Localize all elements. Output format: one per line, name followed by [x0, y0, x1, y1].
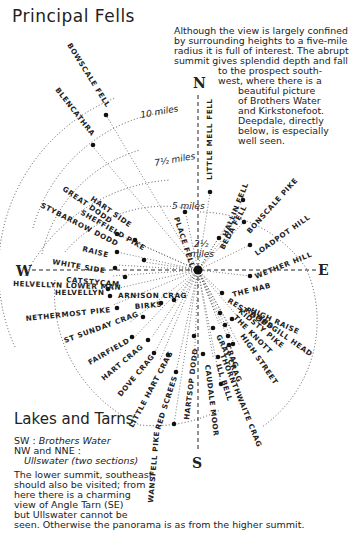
- fell-label: BLENCATHRA: [53, 86, 97, 138]
- note-line: seen. Otherwise the panorama is as from …: [14, 520, 305, 530]
- ring-5-miles-s: [140, 410, 220, 426]
- fell-label: NETHERMOST PIKE: [25, 305, 111, 323]
- compass-east: E: [318, 262, 329, 278]
- lower-summit-note: The lower summit, southeast, should also…: [14, 470, 305, 530]
- fell-label: ARNISON CRAG: [118, 291, 187, 300]
- ring-label-10: 10 miles: [140, 103, 180, 120]
- fell-label: THE NAB: [231, 281, 272, 299]
- fell-label: WHITE SIDE: [52, 257, 106, 275]
- ring-label-7-5: 7½ miles: [154, 151, 197, 168]
- fell-label: RAISE: [82, 244, 110, 259]
- fell-label: HELVELLYN: [55, 288, 105, 297]
- compass-south: S: [192, 455, 202, 471]
- fell-label: BIRKS: [134, 300, 162, 311]
- compass-north: N: [193, 75, 206, 91]
- lake-name: Ullswater: [24, 455, 68, 466]
- fell-label: HARTSOP DODD: [182, 348, 200, 421]
- fell-label: THORNTHWAITE CRAG: [218, 352, 264, 448]
- lake-note: (two sections): [71, 455, 138, 466]
- compass-west: W: [15, 263, 32, 279]
- lakes-list: SW : Brothers Water NW and NNE : Ullswat…: [14, 436, 138, 466]
- lakes-item-ullswater: Ullswater (two sections): [14, 456, 138, 466]
- lakes-heading: Lakes and Tarns: [14, 410, 134, 428]
- ring-label-2-5-num: 2½: [194, 239, 209, 249]
- fell-label: BOWSCALE FELL: [65, 41, 112, 109]
- fell-label: LITTLE MELL FELL: [205, 98, 214, 180]
- ring-label-5: 5 miles: [172, 201, 205, 211]
